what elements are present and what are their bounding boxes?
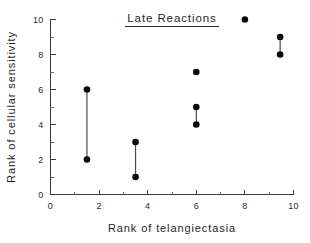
y-axis-title: Rank of cellular sensitivity bbox=[5, 31, 17, 183]
data-points-group bbox=[84, 16, 284, 180]
data-point bbox=[132, 139, 139, 146]
data-point bbox=[193, 104, 200, 111]
x-axis-tick-labels: 0246810 bbox=[48, 201, 299, 211]
y-axis-tick-label: 8 bbox=[38, 50, 43, 60]
data-point bbox=[84, 156, 91, 163]
scatter-plot-svg: Late Reactions 0246810 0246810 Rank of t… bbox=[0, 0, 310, 243]
x-axis-tick-label: 2 bbox=[96, 201, 101, 211]
x-axis-tick-label: 0 bbox=[48, 201, 53, 211]
y-axis-tick-label: 10 bbox=[33, 15, 44, 25]
chart-figure: Late Reactions 0246810 0246810 Rank of t… bbox=[0, 0, 310, 243]
x-axis-title: Rank of telangiectasia bbox=[108, 222, 236, 234]
data-point bbox=[84, 86, 91, 93]
y-axis-tick-labels: 0246810 bbox=[33, 15, 44, 200]
x-axis-tick-label: 6 bbox=[194, 201, 199, 211]
data-point bbox=[193, 121, 200, 128]
data-point bbox=[242, 16, 249, 23]
x-axis-tick-label: 8 bbox=[242, 201, 247, 211]
y-axis-tick-label: 6 bbox=[38, 85, 43, 95]
data-point bbox=[193, 69, 200, 76]
data-connectors-group bbox=[87, 37, 280, 177]
data-point bbox=[277, 51, 284, 58]
data-point bbox=[277, 34, 284, 41]
chart-title: Late Reactions bbox=[127, 12, 216, 24]
data-point bbox=[132, 174, 139, 181]
x-axis-tick-label: 10 bbox=[288, 201, 299, 211]
y-axis-tick-label: 0 bbox=[38, 190, 43, 200]
x-axis-tick-label: 4 bbox=[145, 201, 150, 211]
chart-title-group: Late Reactions bbox=[125, 12, 218, 27]
y-axis-tick-label: 2 bbox=[38, 155, 43, 165]
y-axis-tick-label: 4 bbox=[38, 120, 43, 130]
